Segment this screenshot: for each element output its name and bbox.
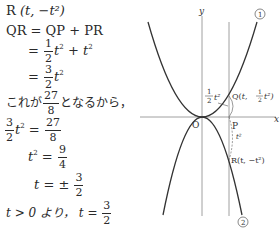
pr-length-label: t² <box>236 133 242 141</box>
curve-1-number: 1 <box>258 11 262 19</box>
origin-label: O <box>192 120 199 130</box>
curve-2-downward-parabola <box>163 117 242 215</box>
qp-frac-num: 1 <box>207 88 211 96</box>
qp-length-t: t² <box>214 93 220 102</box>
q-frac-num: 1 <box>258 88 262 95</box>
point-p-label: P <box>232 121 238 131</box>
point-q-label: Q(t, <box>232 92 247 101</box>
point-r-label: R(t, −t²) <box>231 156 265 165</box>
curve-1-upward-parabola <box>148 22 257 117</box>
y-axis-label: y <box>198 6 205 16</box>
curve-2-number: 2 <box>241 219 245 227</box>
q-coord-t: t²) <box>264 92 274 101</box>
qp-frac-den: 2 <box>207 97 211 105</box>
q-frac-den: 2 <box>258 96 262 103</box>
parabola-graph: y x O 1 2 1 2 t² Q(t, 1 2 t²) P t² R(t, … <box>0 0 280 233</box>
x-axis-label: x <box>274 114 279 124</box>
